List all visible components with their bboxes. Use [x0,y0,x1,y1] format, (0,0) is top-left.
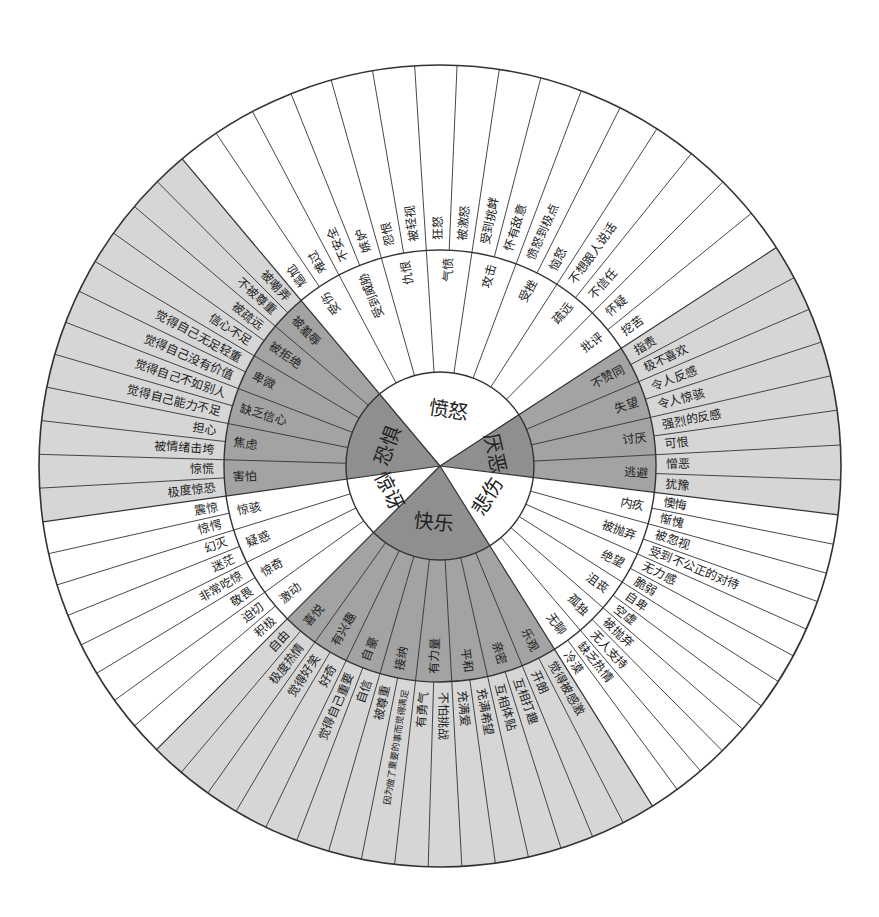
outer-label: 犹豫 [665,477,690,493]
outer-label: 憎恶 [666,456,690,471]
core-emotion-label: 快乐 [412,508,454,536]
middle-label: 焦虑 [233,435,258,452]
outer-label: 有勇气 [413,691,431,728]
middle-label: 气愤 [440,258,456,283]
middle-label: 逃避 [624,465,648,480]
middle-label: 害怕 [232,468,257,484]
outer-label: 惊慌 [190,461,214,476]
outer-label: 可恨 [664,435,689,451]
middle-label: 有力量 [427,638,442,674]
outer-label: 不怕挑战 [436,692,452,740]
emotion-wheel: 受伤尴尬难过受到威胁不安全嫉妒仇恨怨恨被轻视气愤狂怒被激怒攻击受到挑衅怀有敌意受… [0,0,879,917]
outer-label: 狂怒 [429,216,444,240]
